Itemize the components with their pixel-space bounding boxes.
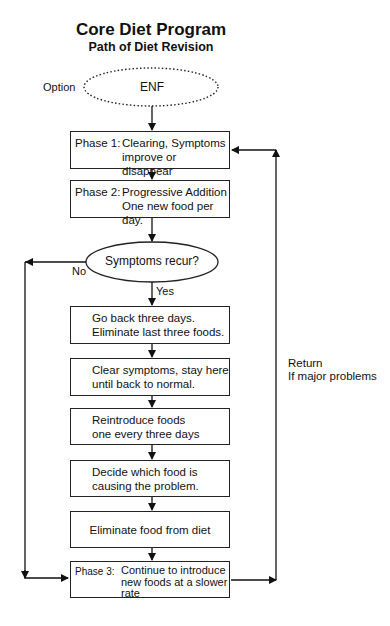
- step-line: Go back three days.: [92, 311, 229, 325]
- step-line: Eliminate food from diet: [90, 523, 211, 537]
- step-decide: Decide which food is causing the problem…: [70, 460, 230, 497]
- no-label: No: [72, 265, 86, 277]
- return-note: Return If major problems: [288, 357, 377, 383]
- phase1-line2: improve or disappear: [122, 150, 229, 178]
- step-line: causing the problem.: [92, 479, 229, 493]
- step-line: Eliminate last three foods.: [92, 325, 229, 339]
- step-line: one every three days: [92, 427, 229, 441]
- phase2-line2: One new food per day.: [122, 199, 229, 227]
- phase3-line1: Continue to introduce: [121, 565, 227, 577]
- step-line: Decide which food is: [92, 465, 229, 479]
- return-line2: If major problems: [288, 370, 377, 383]
- yes-label: Yes: [156, 285, 174, 297]
- phase2-line1: Progressive Addition: [122, 185, 229, 199]
- phase2-box: Phase 2: Progressive Addition One new fo…: [70, 180, 230, 218]
- enf-label: ENF: [110, 80, 194, 94]
- step-line: Reintroduce foods: [92, 413, 229, 427]
- option-label: Option: [43, 81, 75, 93]
- step-line: until back to normal.: [92, 377, 229, 391]
- phase3-label: Phase 3:: [75, 566, 114, 578]
- step-reintroduce: Reintroduce foods one every three days: [70, 408, 230, 445]
- step-go-back: Go back three days. Eliminate last three…: [70, 306, 230, 344]
- decision-text: Symptoms recur?: [100, 254, 204, 268]
- phase3-line3: rate: [121, 588, 227, 600]
- return-line1: Return: [288, 357, 377, 370]
- phase1-line1: Clearing, Symptoms: [122, 136, 229, 150]
- phase3-box: Phase 3: Continue to introduce new foods…: [70, 561, 230, 598]
- step-line: Clear symptoms, stay here: [92, 363, 229, 377]
- phase1-label: Phase 1:: [75, 136, 120, 150]
- step-clear-symptoms: Clear symptoms, stay here until back to …: [70, 358, 230, 396]
- phase1-box: Phase 1: Clearing, Symptoms improve or d…: [70, 131, 230, 169]
- step-eliminate: Eliminate food from diet: [70, 511, 230, 548]
- phase2-label: Phase 2:: [75, 185, 120, 199]
